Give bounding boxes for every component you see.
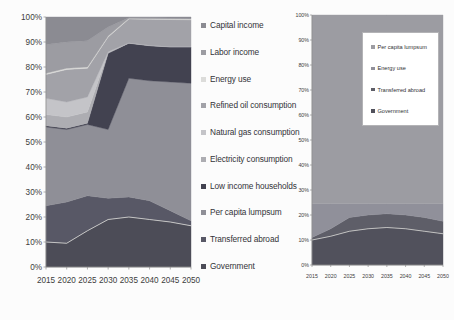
left-chart-y-tick-label: 50% [26, 138, 42, 147]
left-chart-x-tick-label: 2030 [99, 276, 118, 285]
left-chart-x-tick-label: 2035 [120, 276, 139, 285]
right-chart-x-tick-label: 2025 [344, 273, 356, 279]
left-chart-x-tick-label: 2020 [58, 276, 77, 285]
left-chart-y-tick-label: 70% [26, 88, 42, 97]
legend-label-per-capita-lumpsum: Per capita lumpsum [378, 44, 427, 50]
legend-label-transferred-abroad: Transferred abroad [210, 235, 279, 244]
legend-swatch-labor-income [201, 50, 206, 55]
left-chart-x-tick-label: 2040 [140, 276, 159, 285]
legend-swatch-natural-gas-consumption [201, 130, 206, 135]
legend-label-electricity-consumption: Electricity consumption [210, 155, 293, 164]
left-chart-y-tick-label: 80% [26, 63, 42, 72]
legend-swatch-per-capita-lumpsum [371, 45, 375, 49]
legend-item-labor-income: Labor income [201, 48, 301, 57]
legend-label-natural-gas-consumption: Natural gas consumption [210, 128, 299, 137]
legend-item-energy-use: Energy use [371, 65, 431, 71]
left-chart-y-tick-label: 20% [26, 213, 42, 222]
left-chart-x-tick-label: 2025 [78, 276, 97, 285]
left-chart-legend: Capital incomeLabor incomeEnergy useRefi… [201, 21, 301, 271]
left-chart-x-tick-label: 2050 [182, 276, 201, 285]
left-chart-y-tick-label: 30% [26, 188, 42, 197]
right-chart-x-tick-label: 2040 [400, 273, 412, 279]
legend-item-capital-income: Capital income [201, 21, 301, 30]
legend-item-refined-oil-consumption: Refined oil consumption [201, 101, 301, 110]
legend-label-transferred-abroad: Transferred abroad [378, 87, 426, 93]
legend-label-energy-use: Energy use [210, 75, 251, 84]
left-chart-y-tick-label: 100% [21, 13, 42, 22]
left-chart-y-tick-label: 60% [26, 113, 42, 122]
legend-swatch-energy-use [371, 67, 375, 71]
legend-item-natural-gas-consumption: Natural gas consumption [201, 128, 301, 137]
legend-item-electricity-consumption: Electricity consumption [201, 155, 301, 164]
legend-swatch-transferred-abroad [201, 237, 206, 242]
legend-item-transferred-abroad: Transferred abroad [201, 235, 301, 244]
left-chart-y-tick-label: 90% [26, 38, 42, 47]
legend-label-labor-income: Labor income [210, 48, 259, 57]
legend-swatch-per-capita-lumpsum [201, 210, 206, 215]
legend-label-energy-use: Energy use [378, 65, 406, 71]
right-chart-x-tick-label: 2020 [325, 273, 337, 279]
legend-label-government: Government [378, 108, 409, 114]
legend-label-capital-income: Capital income [210, 21, 263, 30]
left-chart-y-tick-label: 0% [30, 263, 42, 272]
legend-label-government: Government [210, 262, 255, 271]
legend-item-low-income-households: Low income households [201, 182, 301, 191]
legend-swatch-electricity-consumption [201, 157, 206, 162]
legend-swatch-government [371, 109, 375, 113]
legend-swatch-refined-oil-consumption [201, 103, 206, 108]
right-chart-x-tick-label: 2045 [418, 273, 430, 279]
right-chart-y-tick-label: 0% [301, 262, 309, 268]
legend-item-government: Government [371, 108, 431, 114]
right-chart-x-tick-label: 2015 [306, 273, 318, 279]
legend-item-per-capita-lumpsum: Per capita lumpsum [201, 208, 301, 217]
legend-item-per-capita-lumpsum: Per capita lumpsum [371, 44, 431, 50]
right-chart-x-tick-label: 2035 [381, 273, 393, 279]
legend-swatch-low-income-households [201, 184, 206, 189]
legend-swatch-government [201, 264, 206, 269]
legend-label-refined-oil-consumption: Refined oil consumption [210, 101, 296, 110]
left-chart-y-tick-label: 10% [26, 238, 42, 247]
legend-item-energy-use: Energy use [201, 75, 301, 84]
legend-swatch-capital-income [201, 23, 206, 28]
right-chart-legend-box: Per capita lumpsumEnergy useTransferred … [362, 32, 439, 126]
legend-label-per-capita-lumpsum: Per capita lumpsum [210, 208, 282, 217]
legend-swatch-energy-use [201, 77, 206, 82]
right-chart-x-tick-label: 2050 [437, 273, 449, 279]
figure-canvas: 0%10%20%30%40%50%60%70%80%90%100%2015202… [0, 0, 454, 320]
legend-item-government: Government [201, 262, 301, 271]
left-chart-y-tick-label: 40% [26, 163, 42, 172]
left-chart-x-tick-label: 2015 [37, 276, 56, 285]
legend-label-low-income-households: Low income households [210, 182, 297, 191]
right-chart-x-tick-label: 2030 [362, 273, 374, 279]
legend-swatch-transferred-abroad [371, 88, 375, 92]
right-chart-y-tick-label: 100% [295, 12, 309, 18]
legend-item-transferred-abroad: Transferred abroad [371, 87, 431, 93]
left-chart-x-tick-label: 2045 [161, 276, 180, 285]
